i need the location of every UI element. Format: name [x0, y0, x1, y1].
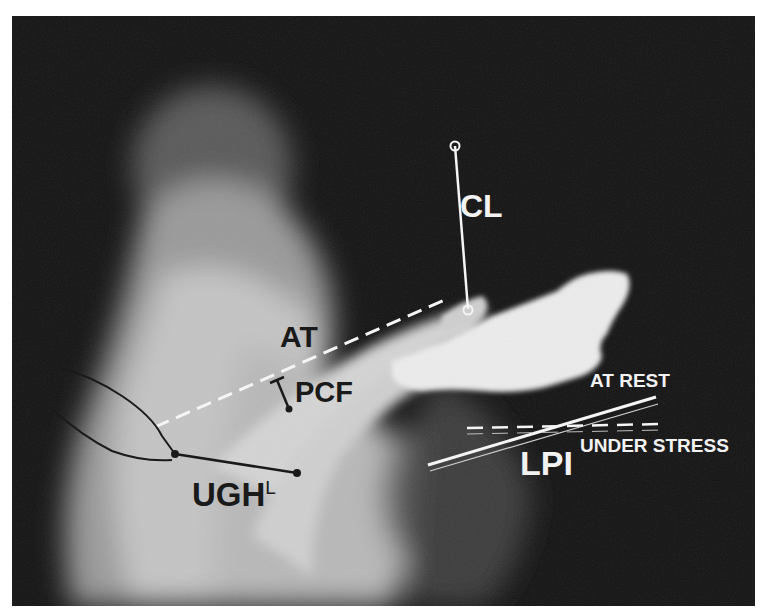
at-label: AT: [280, 322, 318, 352]
radiograph-figure: CL AT PCF UGHL LPI AT REST UNDER STRESS: [12, 16, 755, 606]
lpi-label: LPI: [520, 446, 573, 480]
radiograph-image: [12, 16, 755, 606]
under-stress-label: UNDER STRESS: [580, 436, 729, 455]
cl-label: CL: [460, 190, 503, 222]
ugh-label-subscript: L: [265, 477, 276, 498]
at-rest-label: AT REST: [590, 371, 670, 390]
ugh-label: UGHL: [192, 478, 276, 511]
pcf-label: PCF: [295, 378, 353, 407]
ugh-label-main: UGH: [192, 476, 265, 513]
